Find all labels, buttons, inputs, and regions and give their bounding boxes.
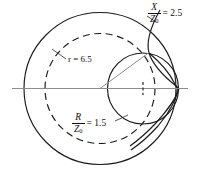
diagram-canvas [0, 0, 203, 172]
radius-label-text: r = 6.5 [68, 54, 92, 64]
radius-label-leader [52, 49, 66, 59]
impedance-circle-diagram: X Z0 = 2.5 R Z0 = 1.5 r = 6.5 [0, 0, 203, 172]
reactance-denominator-subscript: 0 [155, 17, 158, 24]
resistance-denominator: Z0 [72, 124, 85, 134]
radius-label: r = 6.5 [68, 55, 92, 64]
secondary-arc [131, 53, 177, 150]
reactance-label: X Z0 = 2.5 [148, 3, 182, 24]
reactance-numerator: X [149, 3, 159, 13]
reactance-fraction: X Z0 [148, 3, 161, 24]
reactance-value: = 2.5 [163, 9, 183, 19]
reactance-arc-lower [130, 89, 179, 146]
resistance-value: = 1.5 [87, 119, 107, 129]
resistance-fraction: R Z0 [72, 113, 85, 134]
resistance-denominator-subscript: 0 [79, 127, 82, 134]
reactance-denominator: Z0 [148, 14, 161, 24]
resistance-numerator: R [73, 113, 83, 123]
resistance-label: R Z0 = 1.5 [72, 113, 106, 134]
